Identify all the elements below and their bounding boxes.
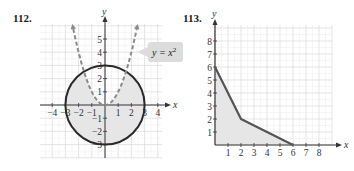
x-axis-arrow-icon bbox=[165, 103, 171, 108]
x-tick-label: 3 bbox=[252, 148, 257, 158]
y-tick-label: 5 bbox=[97, 35, 102, 45]
y-tick-label: 2 bbox=[97, 74, 102, 84]
y-tick-label: 5 bbox=[207, 76, 212, 86]
figure-canvas: 112. 113. xy−4−3−2−11234−3−2−112345y = x… bbox=[0, 0, 354, 171]
x-axis-label: x bbox=[343, 139, 349, 150]
x-tick-label: 1 bbox=[226, 148, 231, 158]
x-axis-arrow-icon bbox=[336, 143, 342, 148]
y-tick-label: 1 bbox=[207, 128, 212, 138]
x-tick-label: −2 bbox=[74, 108, 84, 118]
problem-label-112: 112. bbox=[13, 12, 32, 24]
y-tick-label: 8 bbox=[207, 37, 212, 47]
x-tick-label: 8 bbox=[317, 148, 322, 158]
y-axis-arrow-icon bbox=[213, 19, 218, 25]
graph-112: xy−4−3−2−11234−3−2−112345y = x2 bbox=[40, 6, 183, 158]
y-tick-label: 7 bbox=[207, 50, 212, 60]
x-tick-label: 1 bbox=[116, 108, 121, 118]
callout-pointer bbox=[137, 47, 148, 57]
y-axis-label: y bbox=[211, 8, 217, 19]
y-tick-label: 6 bbox=[207, 63, 212, 73]
y-tick-label: −2 bbox=[92, 127, 102, 137]
problem-label-113: 113. bbox=[183, 12, 202, 24]
parabola-arrow-icon bbox=[71, 24, 76, 29]
x-tick-label: −4 bbox=[47, 108, 57, 118]
x-tick-label: 4 bbox=[155, 108, 160, 118]
x-tick-label: 6 bbox=[291, 148, 296, 158]
parabola-arrow-icon bbox=[134, 24, 139, 29]
y-axis-label: y bbox=[101, 6, 107, 17]
x-tick-label: 4 bbox=[265, 148, 270, 158]
x-tick-label: 7 bbox=[304, 148, 309, 158]
y-tick-label: 4 bbox=[207, 89, 212, 99]
y-tick-label: 1 bbox=[97, 87, 102, 97]
graph-113: xy1234567812345678 bbox=[207, 8, 349, 158]
x-tick-label: 2 bbox=[239, 148, 244, 158]
y-tick-label: −1 bbox=[92, 114, 102, 124]
y-tick-label: 4 bbox=[97, 48, 102, 58]
y-tick-label: 3 bbox=[207, 102, 212, 112]
x-tick-label: 5 bbox=[278, 148, 283, 158]
x-tick-label: 2 bbox=[129, 108, 134, 118]
y-tick-label: 2 bbox=[207, 115, 212, 125]
x-axis-label: x bbox=[172, 99, 178, 110]
